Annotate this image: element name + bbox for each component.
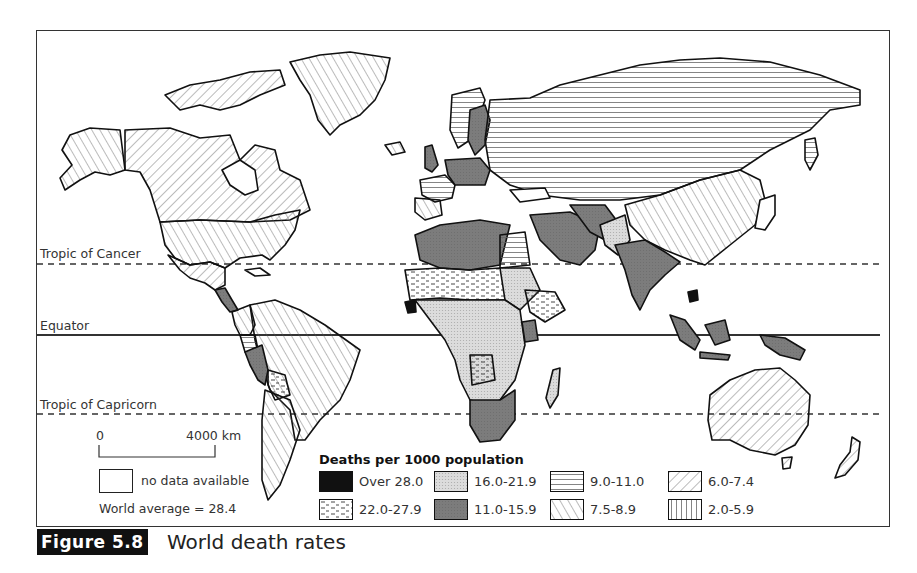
region-tasmania xyxy=(782,457,792,469)
region-greenland xyxy=(290,52,390,135)
scale-start-label: 0 xyxy=(96,428,104,443)
region-kenya xyxy=(522,320,538,342)
legend-item-2-5: 2.0-5.9 xyxy=(668,498,754,520)
legend-item-9-11: 9.0-11.0 xyxy=(550,470,644,492)
region-iceland xyxy=(385,142,405,155)
region-north-africa xyxy=(415,220,510,270)
legend-item-22-27: 22.0-27.9 xyxy=(319,498,422,520)
region-cambodia xyxy=(688,290,698,302)
figure-number: Figure 5.8 xyxy=(37,529,148,555)
region-france xyxy=(420,175,455,202)
figure-title: World death rates xyxy=(167,528,346,556)
solid-black-swatch xyxy=(319,471,353,492)
region-java xyxy=(700,352,730,360)
region-uk xyxy=(425,145,438,172)
tropic-of-capricorn-label: Tropic of Capricorn xyxy=(40,397,157,412)
region-new-guinea xyxy=(760,335,805,360)
forward-diagonal-swatch xyxy=(668,471,702,492)
region-egypt-libya xyxy=(500,232,530,268)
region-west-africa-black xyxy=(405,300,416,313)
region-turkey xyxy=(510,188,550,202)
region-kamchatka xyxy=(805,138,818,170)
region-central-africa xyxy=(415,300,525,405)
region-horn xyxy=(525,290,565,322)
region-borneo xyxy=(705,320,730,345)
region-alaska xyxy=(60,128,125,190)
legend-item-over-28: Over 28.0 xyxy=(319,470,423,492)
horizontal-lines-swatch xyxy=(550,471,584,492)
dashes-swatch xyxy=(319,499,353,520)
region-germany-poland xyxy=(445,158,490,185)
region-canada xyxy=(125,128,310,222)
no-data-swatch xyxy=(99,469,133,493)
tropic-of-cancer-label: Tropic of Cancer xyxy=(40,246,141,261)
legend-item-16-21: 16.0-21.9 xyxy=(434,470,537,492)
region-sumatra xyxy=(670,315,700,350)
scale-end-label: 4000 km xyxy=(186,428,241,443)
equator-label: Equator xyxy=(40,318,89,333)
region-new-zealand xyxy=(835,437,860,478)
legend-item-7-8: 7.5-8.9 xyxy=(550,498,636,520)
region-central-america xyxy=(215,288,238,312)
vertical-lines-swatch xyxy=(668,499,702,520)
region-russia xyxy=(485,58,860,200)
dark-grey-swatch xyxy=(434,499,468,520)
legend-title: Deaths per 1000 population xyxy=(319,452,524,467)
no-data-label: no data available xyxy=(141,473,249,488)
world-average-label: World average = 28.4 xyxy=(99,501,236,516)
scale-bar xyxy=(96,445,216,461)
light-stipple-swatch xyxy=(434,471,468,492)
region-iberia xyxy=(415,198,442,220)
region-canada-islands xyxy=(165,70,285,110)
region-cuba xyxy=(245,268,270,276)
region-angola xyxy=(470,355,495,385)
back-diagonal-swatch xyxy=(550,499,584,520)
legend-item-11-15: 11.0-15.9 xyxy=(434,498,537,520)
region-madagascar xyxy=(546,368,560,408)
legend-item-6-7: 6.0-7.4 xyxy=(668,470,754,492)
region-australia xyxy=(708,368,810,455)
